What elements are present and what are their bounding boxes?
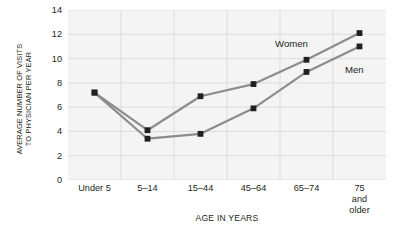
y-axis-tick-label: 14 [46,5,62,15]
x-axis-tick-label: Under 5 [78,183,111,194]
data-point [357,44,363,50]
y-axis-title-line-2: TO PHYSICIAN PER YEAR [25,52,34,146]
y-axis-tick-label: 12 [46,29,62,39]
series-label-women: Women [275,38,308,49]
data-point [145,136,151,142]
data-point [198,131,204,137]
physician-visits-line-chart: AVERAGE NUMBER OF VISITS TO PHYSICIAN PE… [0,0,403,239]
data-point [251,81,257,87]
data-point [357,30,363,36]
data-point [145,127,151,133]
x-axis-title: AGE IN YEARS [68,213,386,223]
data-point [198,93,204,99]
x-axis-tick-labels: Under 55–1415–4445–6465–7475 and older [68,183,386,217]
x-axis-tick-label: 65–74 [294,183,320,194]
y-axis-tick-label: 0 [46,175,62,185]
y-axis-title: AVERAGE NUMBER OF VISITS TO PHYSICIAN PE… [10,10,40,188]
y-axis-tick-label: 6 [46,102,62,112]
plot-area [68,10,386,180]
gridlines [68,10,386,180]
data-point [304,57,310,63]
x-axis-tick-label: 5–14 [137,183,157,194]
y-axis-tick-label: 4 [46,126,62,136]
plot-svg [68,10,386,180]
y-axis-tick-label: 2 [46,151,62,161]
y-axis-tick-label: 10 [46,54,62,64]
data-point [92,90,98,96]
x-axis-tick-label: 75 and older [346,183,373,216]
data-point [251,105,257,111]
series-label-men: Men [345,64,364,75]
x-axis-tick-label: 15–44 [188,183,214,194]
y-axis-tick-label: 8 [46,78,62,88]
y-axis-tick-labels: 02468101214 [42,0,62,239]
data-point [304,69,310,75]
x-axis-tick-label: 45–64 [241,183,267,194]
